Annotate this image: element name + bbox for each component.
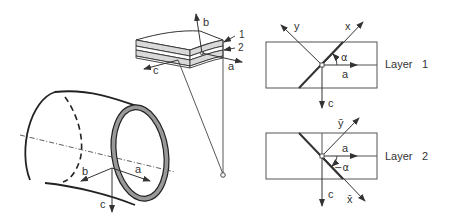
layer1-diagram: y x α a c Layer 1 xyxy=(266,20,428,109)
layer2-number: 2 xyxy=(422,150,428,162)
tube-label-a: a xyxy=(135,163,142,175)
laminate-label-c: c xyxy=(153,64,159,76)
layer2-angle-neg-alpha: −α xyxy=(334,162,349,173)
tube-center-axis xyxy=(20,135,175,172)
tube-label-c: c xyxy=(100,198,106,210)
composite-tube-diagram: a b c b a c 1 2 xyxy=(0,0,450,224)
layer1-title: Layer xyxy=(385,58,413,70)
layer1-number: 1 xyxy=(422,58,428,70)
layer2-title: Layer xyxy=(385,150,413,162)
tube-label-b: b xyxy=(82,165,88,177)
layer1-label-c: c xyxy=(328,97,334,109)
radial-line-left xyxy=(178,60,223,174)
layer2-label-c: c xyxy=(328,188,334,200)
curvature-center-point xyxy=(221,173,226,178)
layer1-label-a: a xyxy=(342,68,349,80)
layer1-angle-alpha: α xyxy=(341,52,348,63)
laminate-layer-label-2: 2 xyxy=(238,42,244,53)
layer2-diagram: ȳ x̄ a −α c Layer 2 xyxy=(266,117,428,206)
laminate-label-b: b xyxy=(203,16,209,28)
laminate-layer-label-1: 1 xyxy=(239,29,245,40)
laminate-label-a: a xyxy=(228,60,235,72)
tube: a b c xyxy=(20,91,175,212)
layer2-label-a: a xyxy=(342,142,349,154)
layer1-pointer-arrow xyxy=(224,36,235,42)
layer1-label-x: x xyxy=(345,20,351,32)
tube-wall-ring xyxy=(108,104,172,202)
laminate-element: b a c 1 2 xyxy=(136,14,245,177)
layer2-pointer-arrow xyxy=(224,48,235,50)
layer2-label-ybar: ȳ xyxy=(338,117,344,129)
layer1-label-y: y xyxy=(294,20,300,32)
layer2-label-xbar: x̄ xyxy=(347,193,353,205)
